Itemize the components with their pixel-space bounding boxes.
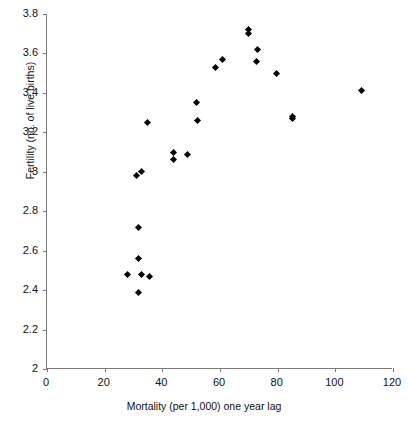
data-point: [135, 289, 142, 296]
y-axis-tick-label: 2.6: [2, 245, 38, 256]
x-axis-tick: [162, 368, 163, 372]
y-axis-tick-label: 3.6: [2, 47, 38, 58]
y-axis-tick: [43, 132, 47, 133]
y-axis-tick: [43, 93, 47, 94]
data-point: [193, 99, 200, 106]
data-point: [170, 156, 177, 163]
y-axis-tick: [43, 172, 47, 173]
scatter-chart-figure: Fertility (no. of live births) Mortality…: [0, 0, 408, 426]
y-axis-tick: [43, 14, 47, 15]
data-point: [194, 117, 201, 124]
x-axis-tick: [335, 368, 336, 372]
data-point: [135, 223, 142, 230]
data-point: [144, 119, 151, 126]
x-axis-tick-label: 120: [372, 377, 408, 388]
y-axis-tick-label: 2.8: [2, 205, 38, 216]
x-axis-tick: [393, 368, 394, 372]
y-axis-tick: [43, 290, 47, 291]
x-axis-tick: [105, 368, 106, 372]
data-point: [135, 255, 142, 262]
x-axis-tick: [47, 368, 48, 372]
y-axis-tick-label: 3.4: [2, 87, 38, 98]
data-point: [245, 30, 252, 37]
x-axis-tick-label: 100: [314, 377, 354, 388]
data-point: [184, 150, 191, 157]
data-point: [273, 70, 280, 77]
y-axis-tick-label: 3: [2, 166, 38, 177]
y-axis-tick-label: 3.2: [2, 126, 38, 137]
y-axis-tick: [43, 251, 47, 252]
data-point: [254, 46, 261, 53]
y-axis-tick: [43, 211, 47, 212]
y-axis-tick: [43, 53, 47, 54]
x-axis-tick: [220, 368, 221, 372]
plot-area: [46, 14, 392, 369]
y-axis-tick: [43, 330, 47, 331]
x-axis-tick: [278, 368, 279, 372]
data-point: [146, 273, 153, 280]
data-point: [212, 64, 219, 71]
data-point: [124, 271, 131, 278]
x-axis-tick-label: 20: [84, 377, 124, 388]
data-point: [358, 87, 365, 94]
y-axis-tick-label: 2.4: [2, 284, 38, 295]
data-point: [138, 271, 145, 278]
data-point: [218, 56, 225, 63]
data-point: [253, 58, 260, 65]
x-axis-title: Mortality (per 1,000) one year lag: [0, 400, 408, 412]
x-axis-tick-label: 0: [26, 377, 66, 388]
y-axis-tick-label: 2: [2, 363, 38, 374]
x-axis-tick-label: 40: [141, 377, 181, 388]
y-axis-tick-label: 2.2: [2, 324, 38, 335]
y-axis-tick-label: 3.8: [2, 8, 38, 19]
x-axis-tick-label: 80: [257, 377, 297, 388]
x-axis-tick-label: 60: [199, 377, 239, 388]
data-point: [170, 149, 177, 156]
